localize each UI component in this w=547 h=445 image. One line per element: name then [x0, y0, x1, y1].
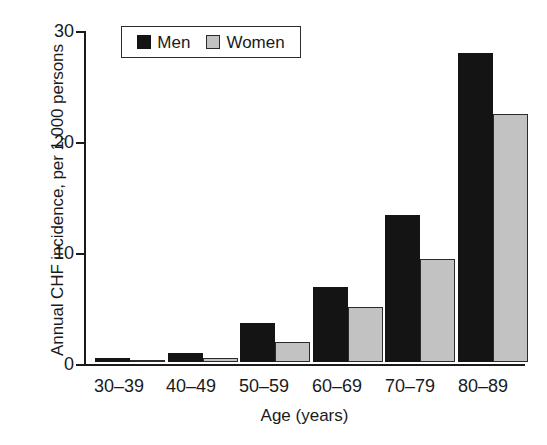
y-axis-title: Annual CHF incidence, per 1,000 persons — [48, 20, 68, 380]
plot-area: 30–39 40–49 50–59 60–69 70–79 80–89 — [84, 31, 525, 364]
y-tick-mark-10 — [76, 253, 84, 255]
bar-women-40-49 — [203, 358, 238, 362]
y-tick-mark-0 — [76, 364, 84, 366]
legend-entry-men: Men — [137, 34, 190, 51]
y-tick-mark-20 — [76, 142, 84, 144]
bar-women-60-69 — [348, 307, 383, 363]
bar-men-50-59 — [240, 323, 275, 362]
legend-entry-women: Women — [206, 34, 284, 51]
legend-swatch-men-icon — [137, 35, 151, 49]
bar-group-1 — [168, 29, 238, 362]
x-tick-label-80-89: 80–89 — [438, 376, 528, 396]
y-tick-mark-30 — [76, 31, 84, 33]
y-tick-label-30: 30 — [14, 22, 74, 40]
bar-group-5 — [458, 29, 528, 362]
legend-label-men: Men — [157, 34, 190, 51]
bar-men-30-39 — [95, 358, 130, 362]
bar-women-50-59 — [275, 342, 310, 362]
chf-incidence-bar-chart: Annual CHF incidence, per 1,000 persons … — [0, 0, 547, 445]
bar-men-40-49 — [168, 353, 203, 362]
bar-group-3 — [313, 29, 383, 362]
x-axis-line — [84, 364, 525, 366]
bar-men-80-89 — [458, 53, 493, 362]
y-tick-label-10: 10 — [14, 244, 74, 262]
y-tick-label-20: 20 — [14, 133, 74, 151]
bar-women-30-39 — [130, 360, 165, 362]
y-tick-label-0: 0 — [14, 355, 74, 373]
bar-women-70-79 — [420, 259, 455, 362]
legend-swatch-women-icon — [206, 35, 220, 49]
bar-group-0 — [95, 29, 165, 362]
bar-men-70-79 — [385, 215, 420, 362]
chart-legend: Men Women — [121, 26, 301, 58]
x-axis-title: Age (years) — [84, 406, 525, 426]
bar-group-4 — [385, 29, 455, 362]
y-axis-line — [84, 31, 86, 365]
bar-men-60-69 — [313, 287, 348, 362]
bar-women-80-89 — [493, 114, 528, 362]
legend-label-women: Women — [226, 34, 284, 51]
bar-group-2 — [240, 29, 310, 362]
